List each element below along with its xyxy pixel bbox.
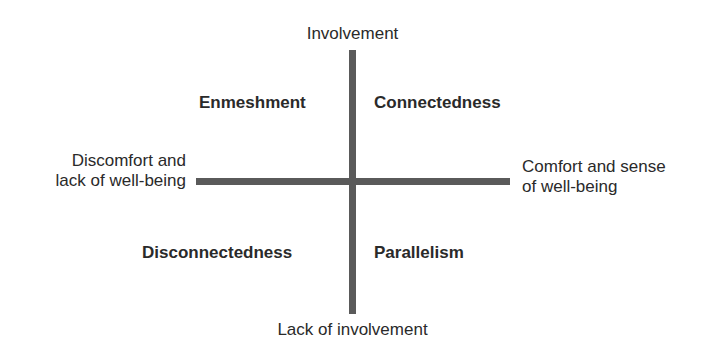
quadrant-label-connectedness: Connectedness — [374, 93, 501, 113]
axis-label-involvement: Involvement — [0, 24, 705, 44]
axis-label-discomfort: Discomfort and lack of well-being — [56, 151, 186, 191]
horizontal-axis-line — [196, 178, 510, 185]
quadrant-label-disconnectedness: Disconnectedness — [142, 243, 292, 263]
quadrant-label-parallelism: Parallelism — [374, 243, 464, 263]
axis-label-comfort: Comfort and sense of well-being — [522, 157, 666, 197]
quadrant-label-enmeshment: Enmeshment — [199, 93, 306, 113]
axis-label-lack-of-involvement: Lack of involvement — [0, 320, 705, 340]
